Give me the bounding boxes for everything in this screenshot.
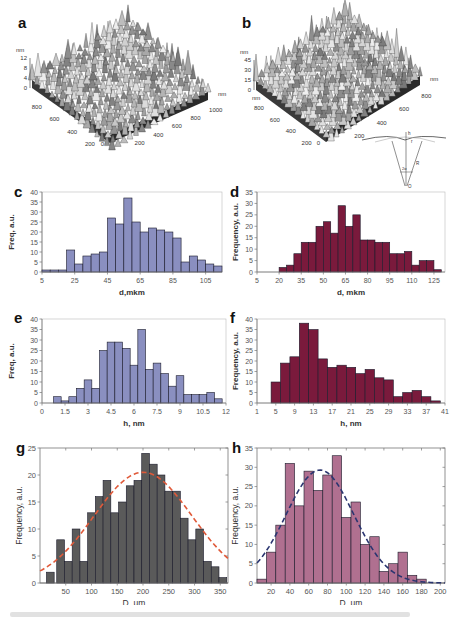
y-tick-label: 30 [30,209,38,216]
histogram-bar [67,250,75,272]
x-tick-label: 200 [137,587,150,596]
histogram-bar [196,529,204,583]
histogram-bar [309,330,318,404]
x-tick-label: 600 [172,123,183,129]
x-tick-label: 10.5 [196,408,210,415]
y-tick-label: 20 [245,358,253,365]
histogram-bar [134,480,142,583]
x-tick-label: 95 [386,277,394,284]
z-tick-label: 45 [244,57,251,63]
x-tick-label: 350 [214,587,227,596]
histogram-bar [365,369,374,403]
y-tick-label: 400 [67,129,78,135]
histogram-bar [153,363,161,403]
histogram-bar [257,579,266,583]
histogram-bar [412,390,421,403]
histogram-d: d 051015202530355203550658095110125d, mk… [230,185,461,300]
y-axis-label: Frequency, a.u. [14,486,24,544]
histogram-bar [80,561,88,583]
x-axis-label: h, nm [340,419,361,428]
histogram-bar [77,388,85,403]
y-tick-label: 25 [245,347,253,354]
bars [279,206,441,272]
y-tick-label: 35 [245,326,253,333]
histogram-bar [204,561,212,583]
y-tick-label: 35 [245,189,253,196]
histogram-bar [299,323,308,403]
y-tick-label: 15 [245,521,253,530]
y-tick-label: 30 [245,463,253,472]
x-tick-label: 300 [188,587,201,596]
histogram-bar [107,218,115,272]
x-tick-label: 200 [434,587,447,596]
x-tick-label: 12 [222,408,230,415]
afm-surface-a: nm1284080060040020002004006008001000nm [0,0,230,160]
histogram-bar [146,369,154,403]
histogram-bar [115,342,123,403]
y-tick-label: 400 [286,128,297,134]
histogram-bar [397,254,404,272]
histogram-bar [279,267,286,272]
y-tick-label: 0 [249,400,253,407]
histogram-bar [404,251,411,272]
histogram-bar [318,359,327,403]
y-tick-label: 35 [30,326,38,333]
histogram-bar [332,456,341,583]
histogram-f: f 05101520253035401591317212529333741h, … [230,311,461,429]
y-tick-label: 10 [30,379,38,386]
histogram-bar [360,544,369,583]
histogram-bar [140,232,148,272]
bars [54,330,223,404]
schematic-label-r: r [411,139,413,144]
y-tick-label: 5 [34,389,38,396]
histogram-bar [157,475,165,583]
x-axis-label: d,mkm [119,288,145,297]
chart-h: 0510152025303520406080100120140160180200… [230,440,461,605]
histogram-bar [103,480,111,583]
y-tick-label: 25 [30,347,38,354]
histogram-bar [100,351,108,404]
y-tick-label: 600 [270,117,281,123]
histogram-bar [215,399,223,403]
z-tick-label: 30 [244,67,251,73]
x-tick-label: 5 [255,277,259,284]
y-tick-label: 5 [34,259,38,266]
y-axis-label: Frequency, a.u. [231,332,240,390]
histogram-bar [116,224,124,272]
histogram-bar [419,261,426,272]
histogram-bar [309,242,316,272]
chart-f: 05101520253035401591317212529333741h, nm… [230,311,461,429]
x-tick-label: 800 [190,115,201,121]
x-tick-label: 80 [364,277,372,284]
z-tick-label: 0 [248,87,252,93]
y-tick-label: 0 [34,400,38,407]
histogram-bar [161,374,169,403]
z-tick-label: 0 [24,85,28,91]
y-tick-label: 25 [245,482,253,491]
y-tick-label: 40 [245,316,253,323]
y-axis-label: Frequency, a.u. [230,486,240,544]
x-tick-label: 25 [366,408,374,415]
y-tick-label: 25 [30,219,38,226]
histogram-bar [346,367,355,403]
histogram-bar [165,232,173,272]
histogram-bar [84,380,92,403]
x-tick-label: 9 [178,408,182,415]
bars [271,323,440,403]
histogram-bar [379,571,388,583]
y-tick-label: 30 [30,337,38,344]
histogram-bar [285,463,294,583]
x-tick-label: 9 [293,408,297,415]
x-tick-label: 0 [317,140,321,146]
x-tick-label: 0 [40,408,44,415]
histogram-c: c 0510152025303540525456585105d,mkmFreq,… [0,185,230,300]
chart-g: 051015202550100150200250300350D, µmFrequ… [0,440,230,605]
x-tick-label: 65 [136,277,144,284]
histogram-bar [370,537,379,583]
x-tick-label: 29 [385,408,393,415]
histogram-g: g 051015202550100150200250300350D, µmFre… [0,440,230,605]
x-axis-label: D, µm [123,598,146,605]
histogram-bar [75,264,83,272]
histogram-e: e 051015202530354001.534.567.5910.512h, … [0,311,230,429]
x-tick-label: 45 [104,277,112,284]
